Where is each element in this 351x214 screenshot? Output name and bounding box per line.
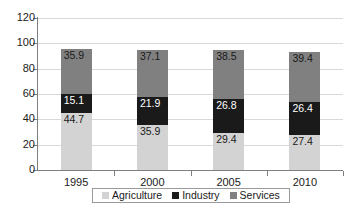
y-axis-label: 20: [7, 139, 35, 150]
bar-stack[interactable]: 35.921.937.1: [137, 18, 168, 170]
legend-item-industry[interactable]: Industry: [172, 190, 219, 201]
bar-value-label: 44.7: [64, 114, 84, 125]
bar-value-label: 39.4: [292, 53, 312, 64]
legend-label: Agriculture: [112, 190, 162, 201]
bar-value-label: 35.9: [140, 126, 160, 137]
bar-stack[interactable]: 44.715.135.9: [61, 18, 92, 170]
bar-value-label: 26.8: [216, 100, 236, 111]
bar-segment-industry[interactable]: 21.9: [137, 97, 168, 125]
legend-swatch-icon: [102, 192, 109, 199]
bar-value-label: 38.5: [216, 51, 236, 62]
x-axis-tick: [267, 171, 268, 176]
legend-label: Industry: [182, 190, 219, 201]
x-axis-tick: [191, 171, 192, 176]
x-axis-tick: [114, 171, 115, 176]
bar-value-label: 21.9: [140, 98, 160, 109]
y-axis-label: 100: [7, 37, 35, 48]
bar-stack[interactable]: 27.426.439.4: [289, 18, 320, 170]
legend-label: Services: [240, 190, 280, 201]
bar-segment-agriculture[interactable]: 44.7: [61, 113, 92, 170]
y-axis-label: 40: [7, 113, 35, 124]
x-axis-label: 2000: [122, 176, 182, 188]
legend-item-agriculture[interactable]: Agriculture: [102, 190, 162, 201]
bar-value-label: 35.9: [64, 50, 84, 61]
bar-value-label: 26.4: [292, 103, 312, 114]
legend-swatch-icon: [230, 192, 237, 199]
bar-segment-industry[interactable]: 15.1: [61, 94, 92, 113]
bar-segment-agriculture[interactable]: 27.4: [289, 135, 320, 170]
bar-value-label: 37.1: [140, 51, 160, 62]
stacked-bar-chart: 020406080100120 1995200020052010 44.715.…: [0, 0, 351, 214]
chart-legend: AgricultureIndustryServices: [92, 188, 290, 203]
y-axis-label: 120: [7, 12, 35, 23]
x-axis-label: 2010: [275, 176, 335, 188]
bar-segment-services[interactable]: 38.5: [213, 50, 244, 99]
y-axis-label: 80: [7, 63, 35, 74]
legend-item-services[interactable]: Services: [230, 190, 280, 201]
bar-segment-services[interactable]: 37.1: [137, 50, 168, 97]
bar-segment-agriculture[interactable]: 29.4: [213, 133, 244, 170]
bar-value-label: 15.1: [64, 95, 84, 106]
legend-swatch-icon: [172, 192, 179, 199]
bar-segment-services[interactable]: 39.4: [289, 52, 320, 102]
bar-stack[interactable]: 29.426.838.5: [213, 18, 244, 170]
bar-segment-industry[interactable]: 26.4: [289, 102, 320, 135]
bar-segment-industry[interactable]: 26.8: [213, 99, 244, 133]
bar-value-label: 27.4: [292, 136, 312, 147]
bar-value-label: 29.4: [216, 134, 236, 145]
y-axis-label: 0: [7, 164, 35, 175]
x-axis-label: 1995: [46, 176, 106, 188]
y-axis-label: 60: [7, 88, 35, 99]
x-axis-label: 2005: [199, 176, 259, 188]
bar-segment-agriculture[interactable]: 35.9: [137, 125, 168, 170]
x-axis-tick: [343, 171, 344, 176]
bar-segment-services[interactable]: 35.9: [61, 49, 92, 94]
